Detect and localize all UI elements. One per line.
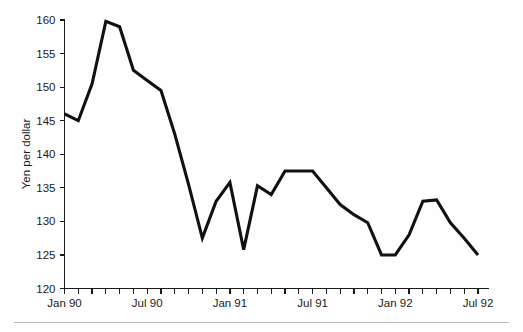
x-axis-tick-label: Jan 90 — [47, 297, 82, 309]
y-axis-tick-label: 140 — [36, 148, 55, 160]
x-axis-tick-label: Jan 91 — [213, 297, 248, 309]
y-axis-title: Yen per dollar — [20, 119, 32, 190]
y-axis-tick-label: 125 — [36, 249, 55, 261]
y-axis-tick-label: 145 — [36, 115, 55, 127]
chart-background — [0, 0, 523, 332]
yen-per-dollar-line-chart: 120125130135140145150155160 Yen per doll… — [0, 0, 523, 332]
x-axis-tick-label: Jul 92 — [463, 297, 494, 309]
y-axis-tick-labels: 120125130135140145150155160 — [36, 14, 55, 295]
x-axis-tick-label: Jan 92 — [378, 297, 413, 309]
y-axis-tick-label: 135 — [36, 182, 55, 194]
y-axis-tick-label: 160 — [36, 14, 55, 26]
y-axis-tick-label: 130 — [36, 215, 55, 227]
y-axis-tick-label: 150 — [36, 81, 55, 93]
chart-figure: 120125130135140145150155160 Yen per doll… — [0, 0, 523, 332]
x-axis-tick-label: Jul 90 — [132, 297, 163, 309]
y-axis-tick-label: 120 — [36, 283, 55, 295]
y-axis-tick-label: 155 — [36, 48, 55, 60]
x-axis-tick-label: Jul 91 — [297, 297, 328, 309]
